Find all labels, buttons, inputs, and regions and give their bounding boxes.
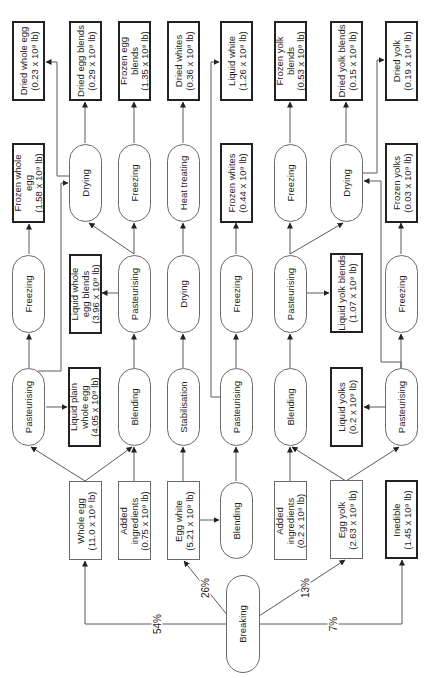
process-pasteurising-egg-blends: Pasteurising [118, 255, 151, 333]
node-dried-whole-egg: Dried whole egg(0.23 x 10⁹ lb) [12, 21, 45, 101]
node-liquid-whole-egg-blends: Liquid whole egg blends(3.96 x 10⁹ lb) [69, 254, 102, 334]
process-label: Pasteurising [285, 255, 296, 333]
process-label: Blending [231, 482, 242, 559]
percent-label-inedible: 7% [328, 616, 339, 632]
node-label: Dried yolk blends [336, 21, 347, 101]
edge-drying-to-dried-yolk [362, 60, 384, 173]
percent-label-egg-white: 26% [200, 577, 211, 599]
node-quantity: (0.29 x 10⁹ lb) [86, 21, 97, 101]
process-blending-whites: Blending [220, 482, 253, 559]
node-label: Liquid white [226, 21, 237, 101]
node-quantity: (1.07 x 10⁹ lb) [347, 253, 358, 333]
node-quantity: (0.75 x 10⁹ lb) [140, 481, 151, 560]
node-added-ingredients-whole-egg: Added ingredients(0.75 x 10⁹ lb) [118, 481, 151, 560]
node-label: Added ingredients [275, 481, 296, 560]
process-label: Drying [341, 144, 352, 222]
edge-whole-egg-to-blending [85, 447, 132, 481]
process-label: Freezing [231, 255, 242, 333]
node-label: Dried whole egg [18, 21, 29, 101]
process-pasteurising-whole-egg: Pasteurising [12, 368, 45, 446]
node-label: Added ingredients [119, 481, 140, 560]
process-label: Blending [129, 368, 140, 446]
edge-pasteurising-to-drying-egg-blends [89, 223, 134, 254]
node-label: Dried whites [173, 21, 184, 101]
node-label: Egg yolk [336, 480, 347, 559]
process-label: Blending [285, 368, 296, 446]
node-quantity: (0.53 x 10⁹ lb) [296, 21, 307, 101]
process-label: Freezing [129, 144, 140, 222]
process-freezing-whites: Freezing [220, 255, 253, 333]
node-quantity: (0.23 x 10⁹ lb) [29, 21, 40, 101]
node-quantity: (5.21 x 10⁹ lb) [184, 481, 195, 560]
node-label: Whole egg [75, 481, 86, 560]
process-breaking: Breaking [226, 575, 260, 673]
node-inedible: Inedible(1.45 x 10⁹ lb) [385, 480, 418, 559]
node-label: Dried yolk [391, 21, 402, 101]
process-label: Drying [178, 255, 189, 333]
process-pasteurising-yolks: Pasteurising [385, 368, 418, 446]
node-quantity: (0.36 x 10⁹ lb) [184, 21, 195, 101]
node-quantity: (0.15 x 10⁹ lb) [347, 21, 358, 101]
process-stabilisation: Stabilisation [167, 368, 200, 446]
node-quantity: (3.96 x 10⁹ lb) [91, 254, 102, 334]
edge-pasteurising-to-liquid-white [211, 62, 222, 397]
edge-drying-to-dried-whole-egg [46, 62, 69, 176]
node-label: Frozen whole egg [13, 143, 34, 223]
node-liquid-plain-whole-egg: Liquid plain whole egg(4.05 x 10⁹ lb) [68, 367, 101, 447]
process-label: Heat treating [178, 144, 189, 222]
node-quantity: (0.2 x 10⁹ lb) [347, 367, 358, 447]
process-label: Freezing [396, 255, 407, 333]
process-blending-yolk: Blending [274, 368, 307, 446]
node-liquid-white: Liquid white(1.26 x 10⁹ lb) [220, 21, 253, 101]
node-label: Frozen yolk blends [275, 21, 296, 101]
node-dried-yolk-blends: Dried yolk blends(0.15 x 10⁹ lb) [330, 21, 363, 101]
node-quantity: (0.44 x 10⁹ lb) [237, 143, 248, 223]
edge-egg-yolk-to-blending [292, 447, 346, 481]
node-label: Inedible [391, 480, 402, 559]
percent-label-whole-egg: 54% [152, 613, 163, 635]
node-frozen-yolks: Frozen yolks(0.03 x 10⁹ lb) [385, 143, 418, 223]
node-frozen-egg-blends: Frozen egg blends(1.35 x 10⁹ lb) [118, 21, 151, 101]
process-label: Freezing [23, 255, 34, 333]
process-drying-egg-blends: Drying [69, 144, 102, 222]
node-quantity: (2.63 x 10⁹ lb) [347, 480, 358, 559]
node-dried-whites: Dried whites(0.36 x 10⁹ lb) [167, 21, 200, 101]
node-liquid-yolks: Liquid yolks(0.2 x 10⁹ lb) [330, 367, 363, 447]
edge-whole-egg-to-pasteurising [31, 447, 85, 481]
percent-label-egg-yolk: 13% [300, 577, 311, 599]
node-label: Dried egg blends [75, 21, 86, 101]
connector-layer [0, 0, 429, 678]
process-label: Freezing [285, 144, 296, 222]
node-frozen-whites: Frozen whites(0.44 x 10⁹ lb) [220, 143, 253, 223]
process-freezing-whole-egg: Freezing [12, 255, 45, 333]
node-label: Liquid plain whole egg [69, 367, 90, 447]
process-pasteurising-whites: Pasteurising [220, 368, 253, 446]
node-added-ingredients-yolk: Added ingredients(0.2 x 10⁹ lb) [274, 481, 307, 560]
process-freezing-yolks: Freezing [385, 255, 418, 333]
node-label: Frozen egg blends [119, 21, 140, 101]
process-label: Stabilisation [178, 368, 189, 446]
node-whole-egg: Whole egg(11.0 x 10⁹ lb) [69, 481, 102, 560]
process-label: Pasteurising [129, 255, 140, 333]
node-quantity: (0.19 x 10⁹ lb) [402, 21, 413, 101]
node-liquid-yolk-blends: Liquid yolk blends(1.07 x 10⁹ lb) [330, 253, 363, 333]
process-blending-whole-egg: Blending [118, 368, 151, 446]
node-label: Frozen yolks [391, 143, 402, 223]
node-frozen-whole-egg: Frozen whole egg(1.58 x 10⁹ lb) [12, 143, 45, 223]
edge-egg-yolk-to-pasteurising [346, 447, 399, 481]
process-freezing-egg-blends: Freezing [118, 144, 151, 222]
node-quantity: (1.35 x 10⁹ lb) [140, 21, 151, 101]
process-label: Breaking [238, 575, 249, 673]
process-label: Drying [80, 144, 91, 222]
node-egg-white: Egg white(5.21 x 10⁹ lb) [167, 481, 200, 560]
node-label: Egg white [173, 481, 184, 560]
node-frozen-yolk-blends: Frozen yolk blends(0.53 x 10⁹ lb) [274, 21, 307, 101]
edge-pasteurising-to-drying-yolk [290, 223, 343, 254]
process-label: Pasteurising [396, 368, 407, 446]
node-quantity: (11.0 x 10⁹ lb) [86, 481, 97, 560]
process-label: Pasteurising [231, 368, 242, 446]
process-pasteurising-yolk-blends: Pasteurising [274, 255, 307, 333]
process-drying-whites: Drying [167, 255, 200, 333]
node-dried-egg-blends: Dried egg blends(0.29 x 10⁹ lb) [69, 21, 102, 101]
node-label: Frozen whites [226, 143, 237, 223]
